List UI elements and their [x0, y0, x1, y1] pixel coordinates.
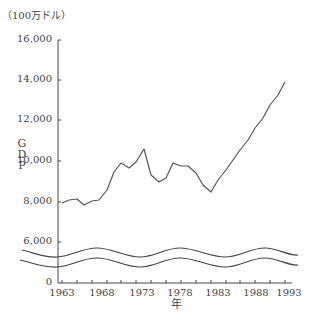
gdp-line — [62, 82, 285, 205]
axis-break-upper — [22, 248, 298, 257]
chart-canvas — [0, 0, 318, 321]
axis-break-lower — [20, 258, 298, 267]
